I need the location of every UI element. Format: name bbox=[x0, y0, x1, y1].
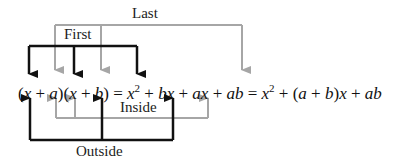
foil-equation: (x + a)(x + b) = x2 + bx + ax + ab = x2 … bbox=[18, 82, 382, 104]
equation-simplified: x2 + (a + b)x + ab bbox=[262, 84, 382, 103]
equation-lhs: (x + a)(x + b) bbox=[18, 84, 109, 103]
last-label: Last bbox=[132, 5, 158, 22]
outside-label: Outside bbox=[76, 143, 123, 160]
first-arrow bbox=[29, 46, 137, 74]
equation-expanded: x2 + bx + ax + ab bbox=[127, 84, 243, 103]
first-label: First bbox=[64, 26, 92, 43]
